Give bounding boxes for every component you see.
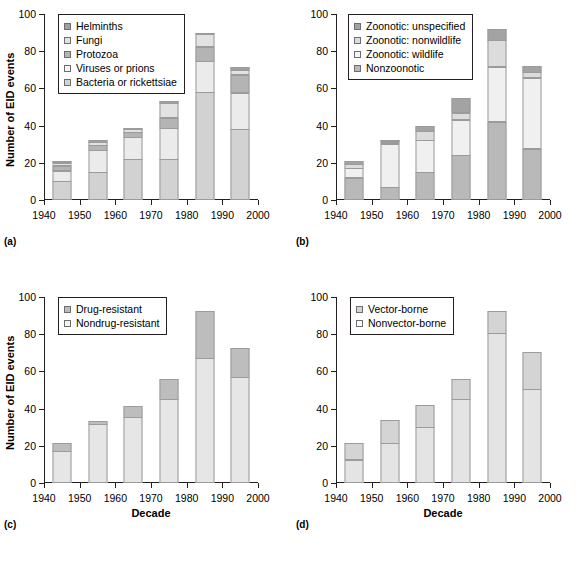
bar-segment-viruses-or-prions xyxy=(124,137,143,159)
y-tick xyxy=(331,51,336,52)
x-tick-label: 1970 xyxy=(431,210,454,220)
x-tick-label: 1990 xyxy=(211,210,234,220)
y-tick xyxy=(39,446,44,447)
legend-item: Protozoa xyxy=(64,47,177,61)
bar-segment-nondrug-resistant xyxy=(231,377,250,483)
x-tick xyxy=(187,200,188,205)
bar-1990s xyxy=(231,67,250,200)
legend-label: Nonvector-borne xyxy=(368,318,446,329)
legend-swatch-icon xyxy=(356,320,363,327)
bar-segment-nonzoonotic xyxy=(380,187,399,200)
legend-label: Protozoa xyxy=(76,49,118,60)
legend-item: Drug-resistant xyxy=(64,302,159,316)
legend-item: Bacteria or rickettsiae xyxy=(64,75,177,89)
bar-segment-bacteria-or-rickettsiae xyxy=(159,159,178,200)
legend-item: Nonvector-borne xyxy=(356,316,446,330)
bar-segment-drug-resistant xyxy=(124,406,143,417)
bar-segment-bacteria-or-rickettsiae xyxy=(124,159,143,200)
legend-label: Vector-borne xyxy=(368,304,428,315)
x-tick xyxy=(151,200,152,205)
legend-swatch-icon xyxy=(354,23,361,30)
x-tick-label: 1990 xyxy=(211,493,234,503)
bar-1950s xyxy=(88,422,107,483)
y-tick xyxy=(39,409,44,410)
x-tick-label: 1970 xyxy=(139,493,162,503)
legend-item: Viruses or prions xyxy=(64,61,177,75)
x-tick xyxy=(479,483,480,488)
x-tick xyxy=(372,483,373,488)
panel-c: Number of EID events 0204060801001940195… xyxy=(0,283,291,565)
panel-label-b: (b) xyxy=(296,236,309,247)
y-tick-label: 60 xyxy=(24,366,36,376)
y-tick-label: 40 xyxy=(316,404,328,414)
y-tick xyxy=(331,446,336,447)
x-tick-label: 2000 xyxy=(538,210,561,220)
y-tick xyxy=(331,409,336,410)
bar-segment-vector-borne xyxy=(344,443,363,461)
legend-item: Zoonotic: nonwildlife xyxy=(354,33,465,47)
bar-segment-zoonotic-unspecified xyxy=(451,98,470,114)
y-tick-label: 80 xyxy=(316,329,328,339)
y-tick-label: 40 xyxy=(24,404,36,414)
bar-segment-drug-resistant xyxy=(195,311,214,359)
bar-segment-nonvector-borne xyxy=(344,460,363,483)
bar-1950s xyxy=(380,421,399,483)
bar-segment-bacteria-or-rickettsiae xyxy=(88,172,107,200)
x-tick-label: 1950 xyxy=(360,210,383,220)
bar-segment-nonvector-borne xyxy=(416,427,435,483)
x-tick xyxy=(80,200,81,205)
y-tick xyxy=(39,163,44,164)
bar-segment-fungi xyxy=(195,34,214,47)
bar-1970s xyxy=(451,379,470,483)
x-tick xyxy=(550,200,551,205)
bar-1960s xyxy=(416,126,435,200)
y-tick-label: 80 xyxy=(24,46,36,56)
bar-segment-protozoa xyxy=(231,75,250,94)
x-tick xyxy=(80,483,81,488)
bar-1940s xyxy=(344,161,363,200)
bar-segment-nonzoonotic xyxy=(451,155,470,200)
x-tick-label: 1960 xyxy=(104,210,127,220)
y-tick xyxy=(39,14,44,15)
y-tick xyxy=(39,126,44,127)
x-tick-label: 1980 xyxy=(467,210,490,220)
legend-item: Zoonotic: wildlife xyxy=(354,47,465,61)
legend-swatch-icon xyxy=(64,65,71,72)
bar-1980s xyxy=(195,311,214,483)
panel-b: 0204060801001940195019601970198019902000… xyxy=(292,0,583,282)
legend-swatch-icon xyxy=(354,51,361,58)
bar-segment-drug-resistant xyxy=(231,348,250,378)
y-tick-label: 0 xyxy=(322,478,328,488)
x-tick-label: 1970 xyxy=(139,210,162,220)
x-tick xyxy=(443,483,444,488)
legend-item: Fungi xyxy=(64,33,177,47)
x-axis-title-d: Decade xyxy=(336,507,550,519)
bar-1990s xyxy=(523,352,542,483)
bar-segment-vector-borne xyxy=(487,311,506,334)
x-tick-label: 2000 xyxy=(246,493,269,503)
y-tick-label: 80 xyxy=(316,46,328,56)
x-tick-label: 1990 xyxy=(503,493,526,503)
x-tick-label: 1950 xyxy=(68,493,91,503)
panel-a: Number of EID events 0204060801001940195… xyxy=(0,0,291,282)
y-tick xyxy=(331,163,336,164)
bar-1940s xyxy=(52,162,71,200)
x-tick xyxy=(187,483,188,488)
bar-segment-nonzoonotic xyxy=(523,149,542,200)
x-tick xyxy=(550,483,551,488)
legend-label: Fungi xyxy=(76,35,102,46)
bar-1990s xyxy=(231,348,250,483)
bar-segment-viruses-or-prions xyxy=(52,171,71,182)
eid-events-figure: Number of EID events 0204060801001940195… xyxy=(0,0,583,565)
panel-label-d: (d) xyxy=(296,519,309,530)
legend-swatch-icon xyxy=(64,51,71,58)
bar-1950s xyxy=(380,141,399,200)
x-tick-label: 1940 xyxy=(324,493,347,503)
x-tick xyxy=(479,200,480,205)
bar-1980s xyxy=(195,34,214,200)
y-axis-title: Number of EID events xyxy=(2,22,18,197)
y-tick-label: 20 xyxy=(24,158,36,168)
y-tick-label: 40 xyxy=(316,121,328,131)
bar-segment-viruses-or-prions xyxy=(159,128,178,160)
y-tick-label: 60 xyxy=(316,366,328,376)
